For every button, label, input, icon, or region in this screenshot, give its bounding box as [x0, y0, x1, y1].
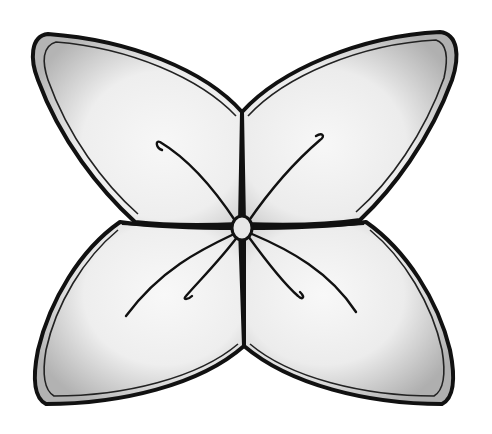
petal-top-left: [33, 34, 242, 225]
flower-drawing: Pencil drawing of a four-petal flower: [0, 0, 492, 434]
flower-illustration: [0, 0, 492, 434]
petal-top-right: [242, 32, 456, 225]
petal-bottom-left: [35, 222, 244, 404]
flower-center: [232, 216, 252, 240]
petal-bottom-right: [244, 222, 453, 404]
